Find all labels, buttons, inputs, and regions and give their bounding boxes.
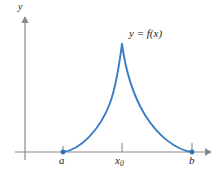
function-curve-left-branch [63,44,122,152]
x-tick-label-x0-subscript: 0 [120,159,124,168]
function-graph-figure: y y = f(x) a x0 b [0,0,217,172]
y-axis-arrowhead [21,16,28,23]
y-axis-label: y [18,2,22,12]
x-tick-label-a: a [59,155,65,166]
x-tick-label-x0: x0 [115,155,124,166]
curve-equation-label: y = f(x) [129,28,162,39]
x-axis-arrowhead [205,148,212,156]
x-tick-label-b: b [189,155,195,166]
graph-canvas [0,0,217,172]
function-curve-right-branch [122,44,192,152]
